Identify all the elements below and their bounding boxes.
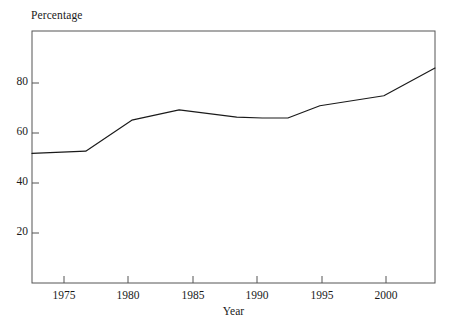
x-axis-ticks (64, 276, 386, 283)
line-chart-figure: Percentage Year 80 60 40 20 1975 1980 19… (0, 0, 450, 327)
plot-area (0, 0, 450, 327)
y-axis-ticks (32, 83, 39, 233)
data-series-line (32, 68, 435, 153)
plot-frame-border (32, 31, 435, 283)
